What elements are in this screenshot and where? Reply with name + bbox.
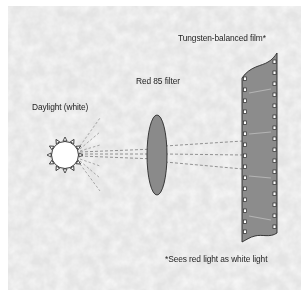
film-strip-icon xyxy=(242,53,277,242)
diagram-canvas xyxy=(0,0,307,296)
filter-label: Red 85 filter xyxy=(136,75,180,86)
footnote-label: *Sees red light as white light xyxy=(165,253,267,264)
red-85-filter-lens xyxy=(147,115,167,195)
sprocket-holes-left xyxy=(244,77,247,233)
daylight-label: Daylight (white) xyxy=(32,101,88,112)
film-label: Tungsten-balanced film* xyxy=(178,32,266,43)
